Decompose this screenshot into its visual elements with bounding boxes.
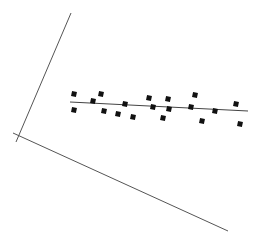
data-points <box>71 91 243 127</box>
data-point <box>146 95 152 101</box>
data-point <box>165 96 171 102</box>
data-point <box>98 91 104 97</box>
data-point <box>71 107 77 113</box>
data-point <box>166 106 172 112</box>
data-point <box>71 91 77 97</box>
data-point <box>188 104 194 110</box>
data-point <box>160 115 166 121</box>
scatter-diagram <box>0 0 258 239</box>
x-axis-line <box>13 133 228 231</box>
data-point <box>199 118 205 124</box>
data-point <box>212 108 218 114</box>
data-point <box>233 101 239 107</box>
regression-line <box>70 102 248 111</box>
data-point <box>150 104 156 110</box>
data-point <box>122 101 128 107</box>
y-axis-line <box>16 13 71 142</box>
data-point <box>130 114 136 120</box>
data-point <box>237 121 243 127</box>
data-point <box>192 92 198 98</box>
data-point <box>90 98 96 104</box>
data-point <box>101 108 107 114</box>
data-point <box>115 111 121 117</box>
